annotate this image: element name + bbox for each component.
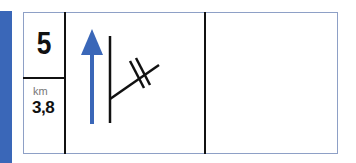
empty-panel [206, 13, 337, 153]
junction-icon [110, 36, 159, 123]
straight-arrow-icon [81, 29, 103, 124]
